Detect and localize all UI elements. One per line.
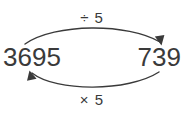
backward-operation-label: × 5 <box>0 92 184 107</box>
result-value: 739 <box>138 44 181 70</box>
backward-arrow-curve <box>32 72 159 87</box>
start-value: 3695 <box>3 44 61 70</box>
forward-operation-label: ÷ 5 <box>0 10 184 25</box>
diagram-canvas: 3695 739 ÷ 5 × 5 <box>0 0 184 114</box>
